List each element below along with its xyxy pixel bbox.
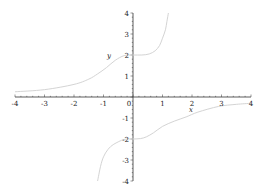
x-tick-label: -1 — [100, 100, 107, 108]
x-tick-label: -4 — [12, 100, 19, 108]
y-tick-label: -3 — [122, 157, 129, 165]
x-tick-label: -2 — [71, 100, 78, 108]
y-tick-label: 3 — [125, 31, 129, 39]
y-tick-label: 4 — [125, 10, 130, 18]
x-tick-label: -3 — [41, 100, 48, 108]
x-tick-label: 3 — [219, 100, 223, 108]
y-tick-label: -2 — [122, 136, 129, 144]
curve-lower-branch — [98, 103, 251, 181]
curve-upper-branch — [15, 13, 168, 92]
y-axis-label: y — [106, 52, 112, 60]
y-tick-label: 2 — [125, 52, 129, 60]
x-tick-label: 1 — [160, 100, 164, 108]
y-tick-label: 1 — [125, 73, 129, 81]
y-tick-label: -1 — [122, 115, 129, 123]
x-tick-label: 0 — [127, 100, 131, 108]
x-axis-label: x — [189, 106, 193, 114]
y-tick-label: -4 — [122, 178, 129, 186]
x-tick-label: 4 — [249, 100, 254, 108]
function-plot: -4-3-2-101234-4-3-2-11234 y x — [0, 0, 263, 194]
axes — [15, 13, 251, 181]
